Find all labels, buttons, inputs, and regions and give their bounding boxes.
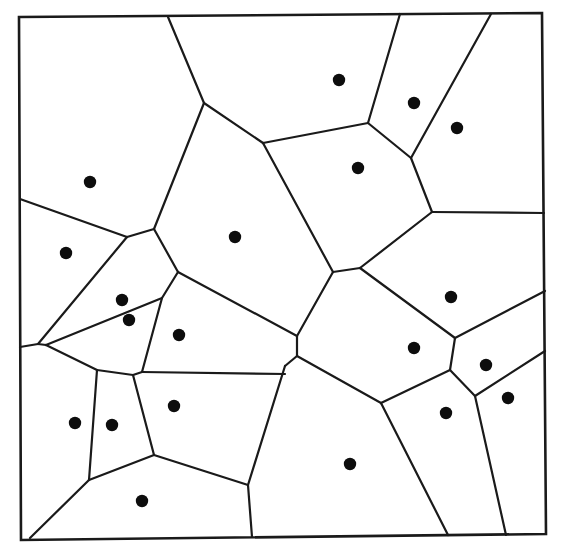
voronoi-edge <box>89 455 154 480</box>
voronoi-edge <box>142 372 285 374</box>
voronoi-edge <box>450 338 455 370</box>
site-point <box>136 495 148 507</box>
site-point <box>229 231 241 243</box>
site-point <box>106 419 118 431</box>
voronoi-edge <box>38 344 46 345</box>
voronoi-edge <box>46 345 97 370</box>
voronoi-edge <box>411 14 491 158</box>
voronoi-edge <box>46 298 162 345</box>
site-point <box>502 392 514 404</box>
voronoi-edge <box>133 372 142 375</box>
site-point <box>480 359 492 371</box>
voronoi-edge <box>89 370 97 480</box>
voronoi-edge <box>360 268 455 338</box>
site-point <box>173 329 185 341</box>
voronoi-edge <box>38 237 127 344</box>
voronoi-diagram <box>0 0 563 553</box>
site-point <box>116 294 128 306</box>
voronoi-edge <box>20 199 127 237</box>
voronoi-edge <box>285 356 297 366</box>
voronoi-edge <box>30 480 89 538</box>
voronoi-edge <box>97 370 133 375</box>
voronoi-edge <box>20 344 38 347</box>
voronoi-edges <box>20 14 545 538</box>
voronoi-edge <box>248 366 285 485</box>
voronoi-edge <box>475 351 545 396</box>
voronoi-edge <box>154 103 204 229</box>
voronoi-edge <box>154 229 178 272</box>
voronoi-edge <box>455 291 545 338</box>
voronoi-edge <box>127 229 154 237</box>
site-point <box>60 247 72 259</box>
site-point <box>408 97 420 109</box>
site-point <box>440 407 452 419</box>
voronoi-edge <box>333 268 360 272</box>
voronoi-edge <box>204 103 263 143</box>
voronoi-edge <box>297 272 333 336</box>
site-point <box>344 458 356 470</box>
site-point <box>69 417 81 429</box>
site-point <box>352 162 364 174</box>
voronoi-edge <box>381 370 450 403</box>
site-point <box>445 291 457 303</box>
voronoi-edge <box>368 14 400 123</box>
voronoi-edge <box>381 403 448 535</box>
voronoi-edge <box>432 212 544 213</box>
site-point <box>123 314 135 326</box>
voronoi-edge <box>154 455 248 485</box>
site-point <box>451 122 463 134</box>
voronoi-edge <box>297 356 381 403</box>
voronoi-edge <box>162 272 178 298</box>
site-point <box>84 176 96 188</box>
diagram-frame <box>19 13 546 540</box>
voronoi-edge <box>142 298 162 372</box>
voronoi-edge <box>263 143 333 272</box>
voronoi-edge <box>248 485 252 537</box>
voronoi-edge <box>450 370 475 396</box>
site-point <box>168 400 180 412</box>
voronoi-edge <box>368 123 411 158</box>
voronoi-edge <box>168 17 204 103</box>
voronoi-edge <box>263 123 368 143</box>
site-point <box>333 74 345 86</box>
voronoi-edge <box>178 272 297 336</box>
voronoi-edge <box>360 212 432 268</box>
voronoi-edge <box>411 158 432 212</box>
voronoi-edge <box>133 375 154 455</box>
site-point <box>408 342 420 354</box>
voronoi-edge <box>475 396 506 535</box>
